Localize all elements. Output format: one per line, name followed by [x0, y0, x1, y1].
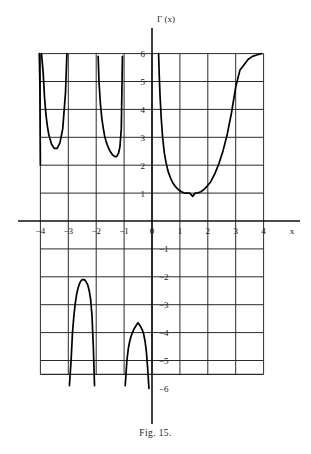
gamma-curve [159, 54, 262, 197]
figure-caption: Fig. 15. [0, 428, 311, 438]
x-tick-label: 4 [261, 226, 266, 236]
x-tick-label: 3 [233, 226, 238, 236]
y-tick-label: 6 [141, 49, 146, 59]
y-tick-label: 3 [141, 133, 146, 143]
gamma-curve [39, 54, 40, 166]
y-axis-title: Γ (x) [157, 14, 175, 24]
x-tick-label: 0 [150, 226, 155, 236]
x-tick-label: −3 [64, 226, 74, 236]
y-tick-label: −3 [159, 300, 169, 310]
figure-root: · · · ·· · · · −4−3−2−101234654321−1−2−3… [0, 0, 311, 454]
y-tick-label: −2 [159, 272, 169, 282]
x-tick-label: −1 [119, 226, 129, 236]
y-tick-label: 1 [141, 189, 146, 199]
y-tick-label: 2 [141, 161, 146, 171]
x-tick-label: 1 [178, 226, 183, 236]
y-tick-label: 5 [141, 77, 146, 87]
tick-labels: −4−3−2−101234654321−1−2−3−4−5−6Γ (x)x [36, 14, 295, 394]
x-tick-label: −2 [91, 226, 101, 236]
y-tick-label: 4 [141, 105, 146, 115]
x-axis-title: x [290, 226, 295, 236]
gamma-curve [98, 56, 122, 156]
y-tick-label: −5 [159, 356, 169, 366]
y-tick-label: −1 [159, 244, 169, 254]
x-tick-label: −4 [36, 226, 46, 236]
y-tick-label: −6 [159, 384, 169, 394]
x-tick-label: 2 [206, 226, 211, 236]
y-tick-label: −4 [159, 328, 169, 338]
gamma-curve [42, 54, 67, 149]
gamma-function-plot: −4−3−2−101234654321−1−2−3−4−5−6Γ (x)x [0, 0, 311, 454]
